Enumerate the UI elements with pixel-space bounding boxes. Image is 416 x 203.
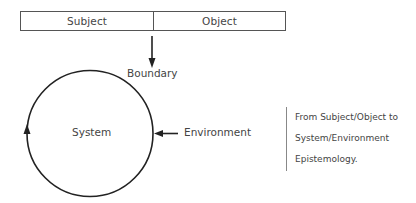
caption-line-1: From Subject/Object to — [295, 107, 398, 128]
diagram-canvas: Subject Object Boundary System Environme… — [0, 0, 416, 203]
caption-line-3: Epistemology. — [295, 149, 398, 170]
system-label: System — [72, 126, 111, 138]
environment-arrow-icon — [154, 130, 178, 137]
caption-line-2: System/Environment — [295, 128, 398, 149]
environment-label: Environment — [184, 126, 251, 138]
caption-note: From Subject/Object to System/Environmen… — [286, 107, 398, 171]
circulation-arrow-icon — [24, 124, 31, 134]
down-arrow-icon — [149, 36, 156, 68]
boundary-label: Boundary — [127, 67, 178, 79]
diagram-graphics — [0, 0, 416, 203]
